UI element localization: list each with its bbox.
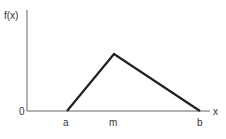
pdf-curve [67, 54, 200, 111]
x-axis-label: x [213, 106, 218, 117]
origin-label: 0 [19, 106, 25, 117]
y-axis-label: f(x) [4, 10, 18, 21]
tick-label-a: a [63, 117, 69, 128]
tick-label-b: b [197, 117, 203, 128]
tick-label-m: m [109, 117, 117, 128]
triangular-distribution-chart: f(x) 0 x a m b [0, 0, 226, 139]
